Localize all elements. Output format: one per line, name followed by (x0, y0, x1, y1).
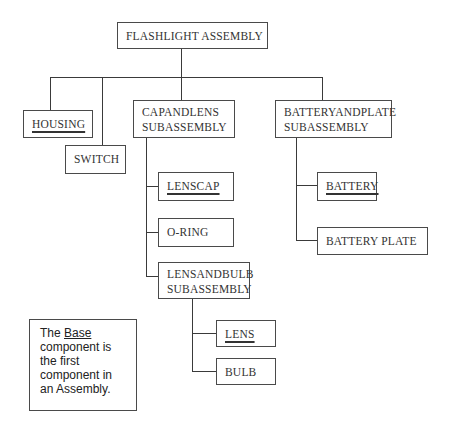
node-label-line2: SUBASSEMBLY (284, 120, 391, 135)
lens-branch-line (192, 333, 216, 334)
batteryandplate-trunk-line (296, 137, 297, 241)
node-bulb: BULB (216, 358, 276, 385)
assembly-tree-diagram: FLASHLIGHT ASSEMBLY HOUSING SWITCH CAPAN… (0, 0, 450, 432)
node-label-line2: SUBASSEMBLY (142, 120, 234, 135)
batteryandplate-drop-line (322, 77, 323, 100)
note-line-5: an Assembly. (40, 382, 130, 396)
node-battery-plate: BATTERY PLATE (317, 227, 428, 255)
note-line-2: component is (40, 340, 130, 354)
node-label: LENS (225, 328, 255, 340)
node-capandlens-subassembly: CAPANDLENS SUBASSEMBLY (133, 100, 235, 138)
node-label-line1: CAPANDLENS (142, 105, 234, 120)
node-lens: LENS (216, 320, 276, 347)
node-label: O-RING (167, 226, 208, 238)
note-line-3: the first (40, 354, 130, 368)
node-flashlight-assembly: FLASHLIGHT ASSEMBLY (117, 22, 268, 49)
node-label-line1: LENSANDBULB (167, 267, 249, 282)
batteryplate-branch-line (296, 240, 317, 241)
oring-branch-line (146, 232, 158, 233)
node-label: FLASHLIGHT ASSEMBLY (126, 30, 263, 42)
node-lenscap: LENSCAP (158, 172, 234, 201)
note-prefix: The (40, 326, 64, 340)
node-battery: BATTERY (317, 172, 377, 201)
node-housing: HOUSING (23, 110, 93, 138)
node-label: SWITCH (74, 153, 119, 165)
capandlens-trunk-line (146, 137, 147, 277)
node-label: BATTERY (326, 180, 379, 192)
lenscap-branch-line (146, 186, 158, 187)
battery-branch-line (296, 185, 317, 186)
lensandbulb-branch-line (146, 276, 158, 277)
level1-bus-line (50, 77, 323, 78)
housing-drop-line (50, 77, 51, 110)
node-label: LENSCAP (167, 180, 220, 192)
note-line-1: The Base (40, 326, 130, 340)
lensandbulb-trunk-line (192, 298, 193, 372)
node-label: BATTERY PLATE (326, 235, 417, 247)
capandlens-drop-line (181, 77, 182, 100)
bulb-branch-line (192, 371, 216, 372)
node-label: BULB (225, 366, 256, 378)
node-batteryandplate-subassembly: BATTERYANDPLATE SUBASSEMBLY (275, 100, 392, 138)
note-line-4: component in (40, 368, 130, 382)
node-switch: SWITCH (65, 145, 126, 174)
node-label: HOUSING (32, 118, 85, 130)
node-label-line2: SUBASSEMBLY (167, 282, 249, 297)
root-stem-line (181, 48, 182, 77)
note-emphasis-base: Base (64, 326, 91, 340)
base-component-note: The Base component is the first componen… (29, 319, 137, 411)
node-label-line1: BATTERYANDPLATE (284, 105, 391, 120)
node-o-ring: O-RING (158, 218, 234, 247)
node-lensandbulb-subassembly: LENSANDBULB SUBASSEMBLY (158, 262, 250, 299)
switch-drop-line (102, 77, 103, 145)
